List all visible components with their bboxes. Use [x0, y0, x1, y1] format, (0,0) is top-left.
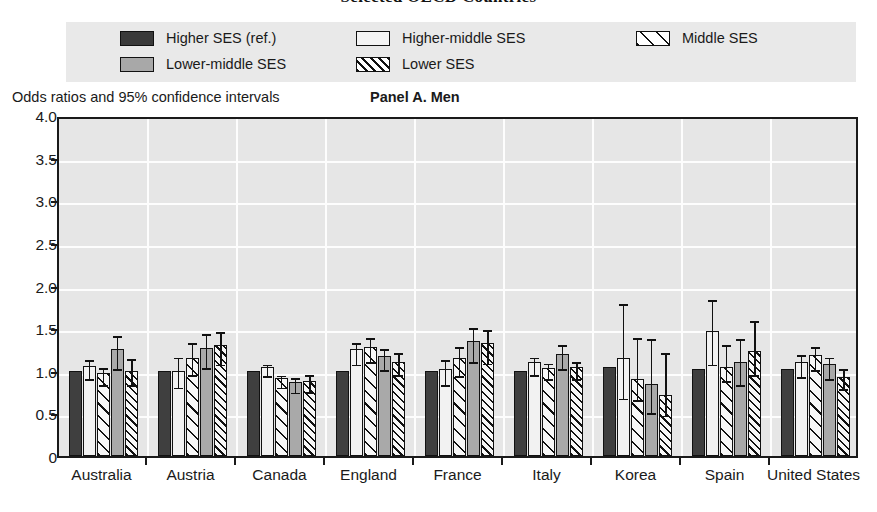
x-axis-tick-mark [412, 458, 414, 465]
gridline-horizontal [59, 289, 856, 291]
error-bar-cap [661, 416, 670, 418]
error-bar-cap [113, 369, 122, 371]
error-bar-cap [291, 378, 300, 380]
error-bar-cap [455, 347, 464, 349]
error-bar [487, 330, 489, 363]
error-bar-cap [839, 389, 848, 391]
x-axis-label: France [433, 466, 481, 484]
error-bar-cap [188, 375, 197, 377]
error-bar-cap [85, 360, 94, 362]
error-bar-cap [811, 370, 820, 372]
y-axis-tick-label: 0 [7, 449, 57, 467]
error-bar-cap [216, 332, 225, 334]
x-axis-tick-mark [501, 458, 503, 465]
error-bar-cap [619, 304, 628, 306]
error-bar-cap [647, 413, 656, 415]
error-bar-cap [263, 376, 272, 378]
error-bar [740, 339, 742, 385]
error-bar [192, 343, 194, 375]
error-bar-cap [263, 365, 272, 367]
error-bar-cap [572, 362, 581, 364]
error-bar [637, 338, 639, 400]
error-bar-cap [352, 343, 361, 345]
x-axis-labels: AustraliaAustriaCanadaEnglandFranceItaly… [57, 466, 858, 496]
error-bar-cap [394, 375, 403, 377]
x-axis-label: United States [767, 466, 860, 484]
gridline-vertical [236, 119, 238, 456]
legend-item-higher-ses: Higher SES (ref.) [120, 30, 276, 46]
bar [781, 369, 795, 456]
y-axis-tick-label: 2.0 [7, 279, 57, 297]
error-bar-cap [469, 328, 478, 330]
error-bar-cap [99, 368, 108, 370]
gridline-horizontal [59, 203, 856, 205]
error-bar-cap [85, 379, 94, 381]
gridline-vertical [592, 119, 594, 456]
gridline-vertical [147, 119, 149, 456]
error-bar-cap [722, 381, 731, 383]
figure-title: Selected OECD Countries [0, 0, 877, 7]
error-bar [548, 364, 550, 379]
error-bar-cap [825, 358, 834, 360]
error-bar [754, 321, 756, 375]
y-axis: 00.51.01.52.02.53.03.54.0 [0, 117, 57, 458]
error-bar-cap [633, 338, 642, 340]
error-bar-cap [455, 376, 464, 378]
error-bar [178, 358, 180, 388]
error-bar [206, 334, 208, 368]
y-axis-note: Odds ratios and 95% confidence intervals [12, 89, 280, 105]
error-bar-cap [736, 385, 745, 387]
panel-label: Panel A. Men [370, 89, 460, 105]
error-bar [309, 375, 311, 392]
error-bar-cap [619, 399, 628, 401]
error-bar-cap [558, 369, 567, 371]
y-axis-tick-label: 3.5 [7, 151, 57, 169]
error-bar-cap [366, 362, 375, 364]
error-bar-cap [380, 370, 389, 372]
error-bar-cap [366, 338, 375, 340]
error-bar [295, 378, 297, 392]
error-bar [131, 359, 133, 385]
error-bar [473, 328, 475, 362]
error-bar-cap [202, 368, 211, 370]
error-bar-cap [441, 360, 450, 362]
error-bar [651, 339, 653, 413]
error-bar [726, 345, 728, 381]
error-bar-cap [661, 353, 670, 355]
gridline-vertical [325, 119, 327, 456]
error-bar-cap [839, 369, 848, 371]
gridline-vertical [770, 119, 772, 456]
error-bar-cap [647, 339, 656, 341]
x-axis-label: Canada [252, 466, 306, 484]
x-axis-label: Korea [615, 466, 656, 484]
x-axis-tick-mark [590, 458, 592, 465]
bar [247, 371, 261, 456]
error-bar [220, 332, 222, 364]
legend-label: Higher-middle SES [402, 30, 525, 46]
legend-item-higher-middle-ses: Higher-middle SES [356, 30, 525, 46]
solid-dark-swatch-icon [120, 31, 154, 46]
error-bar [843, 369, 845, 389]
error-bar-cap [291, 393, 300, 395]
error-bar-cap [544, 379, 553, 381]
error-bar-cap [750, 321, 759, 323]
error-bar-cap [352, 365, 361, 367]
y-axis-tick-label: 1.0 [7, 364, 57, 382]
bar [542, 368, 556, 456]
error-bar-cap [127, 359, 136, 361]
error-bar-cap [305, 392, 314, 394]
bar [514, 371, 528, 456]
x-axis-label: Austria [166, 466, 214, 484]
error-bar-cap [380, 349, 389, 351]
y-axis-tick-label: 3.0 [7, 193, 57, 211]
error-bar [398, 353, 400, 374]
error-bar-cap [277, 388, 286, 390]
diagonal-hatch-sparse-swatch-icon [636, 31, 670, 46]
error-bar-cap [530, 375, 539, 377]
bar [261, 367, 275, 457]
solid-white-swatch-icon [356, 31, 390, 46]
error-bar [815, 347, 817, 370]
error-bar-cap [174, 358, 183, 360]
error-bar-cap [174, 388, 183, 390]
x-axis-tick-mark [768, 458, 770, 465]
